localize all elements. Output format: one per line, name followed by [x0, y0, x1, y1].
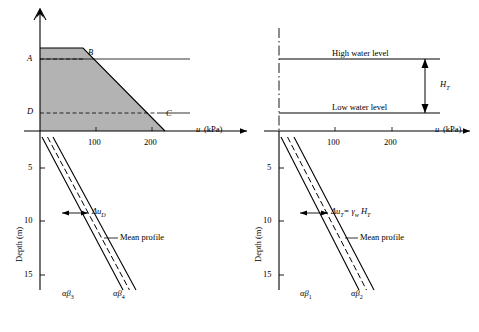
ht-arrow-down — [422, 104, 429, 113]
left-x-axis-units: (kPa) — [204, 124, 222, 134]
diagram-svg — [0, 0, 479, 332]
left-ytick-5: 5 — [28, 162, 32, 172]
left-x-axis-label: u — [196, 124, 200, 134]
right-deltau-eq-tail: H — [359, 206, 367, 216]
left-alphabeta4-label: αβ4 — [113, 288, 125, 300]
left-deltau-arrowhead-left — [62, 210, 69, 215]
left-deltau-sub: D — [101, 212, 105, 218]
low-water-label: Low water level — [332, 102, 387, 112]
right-mean-profile-label: Mean profile — [360, 232, 404, 242]
left-deltau-text: Δu — [92, 206, 101, 216]
right-xtick-100: 100 — [327, 137, 340, 147]
right-depth-axis — [279, 131, 284, 290]
left-ab4-text: αβ — [113, 288, 122, 298]
right-deltau-eq-tail-sub: T — [367, 212, 370, 218]
left-profile-lines — [42, 137, 136, 290]
left-ytick-10: 10 — [24, 215, 33, 225]
right-y-axis-label: Depth (m) — [253, 227, 263, 262]
left-xtick-200: 200 — [144, 137, 157, 147]
right-alphabeta1-label: αβ1 — [300, 288, 312, 300]
left-ab3-sub: 3 — [71, 294, 74, 300]
right-ytick-5: 5 — [267, 162, 271, 172]
right-ab2-sub: 2 — [360, 294, 363, 300]
ht-sub: T — [446, 85, 449, 91]
point-label-C: C — [166, 108, 172, 118]
right-alphabeta2-label: αβ2 — [351, 288, 363, 300]
high-water-label: High water level — [332, 48, 389, 58]
left-y-axis-label: Depth (m) — [14, 227, 24, 262]
left-ab3-text: αβ — [62, 288, 71, 298]
left-embankment — [24, 8, 247, 134]
right-deltau-arrowhead-left — [300, 210, 307, 215]
right-ab2-text: αβ — [351, 288, 360, 298]
right-ytick-10: 10 — [263, 215, 272, 225]
point-label-A: A — [27, 53, 32, 63]
right-deltau-label: ΔuT= γw HT — [331, 206, 370, 218]
right-xtick-200: 200 — [384, 137, 397, 147]
left-ab4-sub: 4 — [122, 294, 125, 300]
left-xtick-100: 100 — [88, 137, 101, 147]
right-deltau-text: Δu — [331, 206, 340, 216]
embankment-fill — [40, 48, 165, 131]
left-x-arrow — [240, 128, 247, 133]
right-x-arrow — [463, 128, 470, 133]
right-x-axis-label: u — [435, 124, 439, 134]
left-depth-axis — [40, 131, 45, 290]
left-mean-profile-label: Mean profile — [120, 232, 164, 242]
ht-label: HT — [440, 79, 449, 91]
left-deltau-label: ΔuD — [92, 206, 106, 218]
right-ab1-sub: 1 — [309, 294, 312, 300]
right-deltau-eq: = γ — [344, 206, 355, 216]
figure-container: A B C D 100 200 u (kPa) 5 10 15 Depth (m… — [0, 0, 479, 332]
right-x-axis-units: (kPa) — [443, 124, 461, 134]
left-alphabeta3-label: αβ3 — [62, 288, 74, 300]
left-ytick-15: 15 — [24, 269, 33, 279]
point-label-D: D — [27, 106, 33, 116]
left-line-mean — [48, 137, 130, 290]
right-ytick-15: 15 — [263, 269, 272, 279]
right-ab1-text: αβ — [300, 288, 309, 298]
ht-arrow-up — [422, 59, 429, 68]
point-label-B: B — [88, 47, 93, 57]
right-deltau-arrowhead-right — [321, 210, 328, 215]
